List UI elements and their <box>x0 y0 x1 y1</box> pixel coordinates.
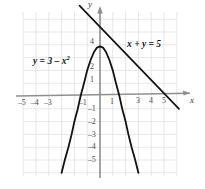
x-axis-name: x <box>190 96 194 105</box>
y-tick-label: –2 <box>88 118 96 126</box>
y-tick-label: –3 <box>88 131 96 139</box>
line-equation-label: x + y = 5 <box>127 40 161 50</box>
x-tick-label: –5 <box>18 99 26 107</box>
parabola-equation-label: y = 3 – x2 <box>33 57 70 67</box>
x-tick-label: 3 <box>136 97 140 105</box>
parabola-equation-exponent: 2 <box>66 54 69 61</box>
x-tick-label: 4 <box>149 97 153 105</box>
y-tick-label: 1 <box>90 76 94 84</box>
y-axis-name: y <box>88 0 92 9</box>
parabola-equation-text: y = 3 – x <box>33 56 66 66</box>
y-tick-label: 2 <box>90 63 94 71</box>
y-tick-label: –5 <box>88 156 96 164</box>
y-tick-label: –4 <box>88 143 96 151</box>
x-tick-label: –4 <box>31 99 39 107</box>
y-tick-label: 4 <box>90 38 94 46</box>
x-tick-label: 1 <box>110 98 114 106</box>
x-tick-label: 5 <box>162 97 166 105</box>
graph-figure: y x –5 –4 –3 –1 1 3 4 5 4 2 1 –1 –2 –3 –… <box>0 0 205 189</box>
x-tick-label: –1 <box>79 99 87 107</box>
coordinate-plane <box>0 0 205 189</box>
x-tick-label: –3 <box>44 99 52 107</box>
y-tick-label: –1 <box>88 105 96 113</box>
